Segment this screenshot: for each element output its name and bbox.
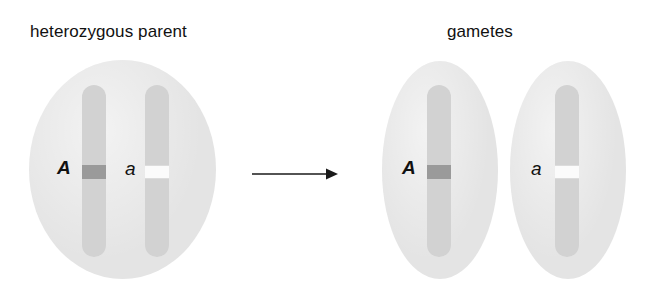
parent-allele-label-recessive: a [125,158,136,180]
parent-caption: heterozygous parent [30,22,187,42]
parent-chromosome-dominant [82,85,106,257]
gamete-chromosome-dominant [427,85,451,257]
gamete-allele-label-recessive: a [531,158,542,180]
allele-band-recessive-icon [555,165,579,179]
gamete-allele-label-dominant: A [402,157,416,179]
gametes-caption: gametes [447,22,513,42]
parent-allele-label-dominant: A [57,157,71,179]
parent-chromosome-recessive [145,85,169,257]
allele-band-dominant-icon [427,165,451,179]
segregation-arrow-icon [252,166,338,182]
meiosis-segregation-diagram: heterozygous parent gametes A a A a [0,0,656,289]
gamete-chromosome-recessive [555,85,579,257]
allele-band-recessive-icon [145,165,169,179]
allele-band-dominant-icon [82,165,106,179]
